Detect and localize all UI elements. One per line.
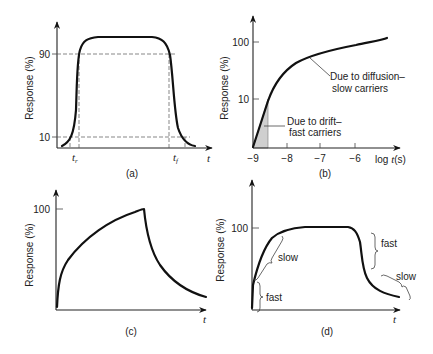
panel-caption: (b) [319,168,331,179]
fall-fast-brace [371,233,378,269]
drift-annotation-line2: fast carriers [289,127,341,138]
diffusion-annotation-line1: Due to diffusion– [330,71,405,82]
y-tick-100: 100 [232,37,249,48]
y-axis-label: Response (%) [219,56,230,119]
panel-a: 90 10 Response (%) tr tf t (a) [24,22,212,179]
fall-fast-label: fast [381,238,397,249]
fall-slow-label: slow [396,271,417,282]
t-fall-label: tf [173,151,179,165]
t-rise-label: tr [72,151,78,165]
y-axis-label: Response (%) [24,56,35,119]
panel-d: 100 Response (%) fast slow fast slow t (… [215,180,417,337]
rise-fast-brace [257,282,263,312]
x-axis-label: t [203,313,207,325]
panel-c: 100 Response (%) t (c) [24,190,207,337]
diffusion-leader [310,58,330,76]
panel-caption: (c) [125,326,137,337]
y-axis-label: Response (%) [215,218,226,281]
panel-caption: (d) [321,326,333,337]
diffusion-annotation-line2: slow carriers [332,83,388,94]
rise-fast-label: fast [266,292,282,303]
x-axis-label: t [207,152,211,164]
rise-slow-label: slow [278,252,299,263]
y-tick-90: 90 [39,49,51,60]
x-tick-minus6: −6 [349,153,361,164]
x-axis-label: log t(s) [375,153,406,165]
photodetector-response-diagram: 90 10 Response (%) tr tf t (a) 100 10 Re… [0,0,433,354]
y-axis-label: Response (%) [24,223,35,286]
drift-annotation-line1: Due to drift– [287,116,342,127]
x-tick-minus7: −7 [314,153,326,164]
x-tick-minus9: −9 [247,153,259,164]
y-tick-10: 10 [39,132,51,143]
y-tick-10: 10 [238,94,250,105]
x-tick-minus8: −8 [281,153,293,164]
panel-caption: (a) [126,168,138,179]
x-axis-label: t [393,313,397,325]
y-tick-100: 100 [231,223,248,234]
panel-b: 100 10 Response (%) −9 −8 −7 −6 log t(s)… [219,16,406,179]
y-tick-100: 100 [33,204,50,215]
slow-rise-fall-curve [57,209,206,307]
pulse-response-curve [62,37,195,146]
